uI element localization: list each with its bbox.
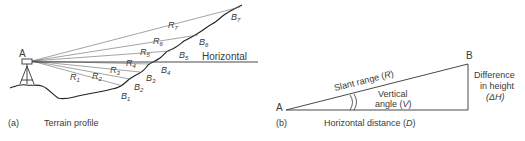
label-b5: B5	[179, 50, 189, 61]
point-a-label: A	[276, 102, 283, 113]
label-r5: R5	[140, 47, 151, 58]
label-b2: B2	[134, 82, 144, 93]
total-station-tripod-icon	[20, 59, 34, 84]
label-r2: R2	[92, 71, 103, 82]
horizontal-label: Horizontal	[202, 51, 247, 62]
label-r7: R7	[168, 20, 179, 31]
caption-b-letter: (b)	[276, 118, 287, 128]
panel-a: A Horizontal R1 R2 R3 R4 R5 R6 R7 B1 B2 …	[8, 5, 258, 128]
slant-range-rays	[32, 7, 240, 86]
vertical-angle-line2: angle (V)	[375, 99, 412, 109]
vertical-angle-arc-icon-2	[354, 94, 357, 110]
label-b3: B3	[146, 73, 156, 84]
label-b6: B6	[199, 37, 209, 48]
difference-height-line1: Difference	[474, 70, 515, 80]
difference-height-symbol: (ΔH)	[486, 92, 505, 102]
label-b7: B7	[231, 12, 241, 23]
caption-a-text: Terrain profile	[44, 118, 99, 128]
point-b-label: B	[466, 50, 473, 61]
station-label-a: A	[19, 48, 26, 59]
vertical-angle-line1: Vertical	[378, 89, 408, 99]
label-b4: B4	[161, 65, 171, 76]
caption-a-letter: (a)	[8, 118, 19, 128]
difference-height-line2: in height	[480, 81, 515, 91]
vertical-angle-arc-icon	[350, 95, 353, 110]
horizontal-distance-label: Horizontal distance (D)	[324, 118, 416, 128]
survey-diagram: A Horizontal R1 R2 R3 R4 R5 R6 R7 B1 B2 …	[0, 0, 525, 141]
label-r3: R3	[110, 65, 121, 76]
panel-b: A B Slant range (R) Vertical angle (V) D…	[276, 50, 515, 128]
label-b1: B1	[121, 91, 130, 102]
label-r6: R6	[153, 36, 164, 47]
label-r4: R4	[126, 58, 137, 69]
